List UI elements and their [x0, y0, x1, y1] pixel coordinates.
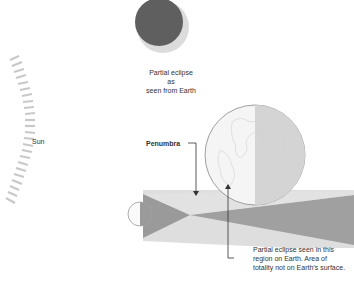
sun-arc-icon	[6, 56, 35, 203]
callout-label: Partial eclipse seen in this region on E…	[253, 245, 353, 272]
partial-eclipse-icon	[135, 0, 189, 53]
sun-label: Sun	[32, 137, 44, 146]
callout-line-1: Partial eclipse seen in this	[253, 245, 353, 254]
penumbra-leader-line	[188, 143, 196, 195]
penumbra-label: Penumbra	[146, 139, 180, 148]
eclipse-view-line-2: seen from Earth	[146, 86, 196, 95]
callout-line-3: totality not on Earth’s surface.	[253, 263, 353, 272]
eclipse-view-label: Partial eclipse as seen from Earth	[146, 68, 196, 95]
moon-icon	[128, 202, 152, 226]
eclipse-view-line-1: Partial eclipse as	[146, 68, 196, 86]
earth-icon	[205, 105, 305, 205]
callout-line-2: region on Earth. Area of	[253, 254, 353, 263]
